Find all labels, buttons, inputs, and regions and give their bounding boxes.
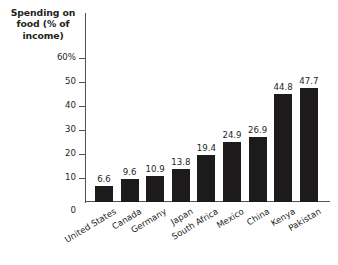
chart-title-line-3: income): [4, 30, 82, 41]
bar: [249, 137, 267, 202]
bar: [197, 155, 215, 202]
bar-value-label: 26.9: [242, 126, 274, 135]
bar: [172, 169, 190, 202]
bar-value-label: 47.7: [293, 77, 325, 86]
bar-value-label: 19.4: [190, 144, 222, 153]
y-tick-mark-40: [79, 106, 86, 107]
y-tick-mark-10: [79, 178, 86, 179]
chart-title-line-1: Spending on: [4, 7, 82, 18]
y-tick-label-50: 50: [16, 77, 76, 86]
bar: [121, 179, 139, 202]
bar: [95, 186, 113, 202]
chart-title: Spending on food (% of income): [4, 7, 82, 41]
x-axis-label-china: China: [245, 207, 271, 228]
bar: [146, 176, 164, 202]
y-tick-mark-30: [79, 130, 86, 131]
y-axis-line: [85, 13, 86, 203]
bar: [300, 88, 318, 202]
y-tick-mark-20: [79, 154, 86, 155]
chart-title-line-2: food (% of: [4, 18, 82, 29]
bar-chart: Spending on food (% of income) 60%504030…: [0, 0, 338, 265]
y-tick-mark-60: [79, 58, 86, 59]
y-tick-label-0: 0: [16, 206, 76, 215]
y-tick-label-30: 30: [16, 125, 76, 134]
bar: [274, 94, 292, 202]
x-axis-label-mexico: Mexico: [215, 207, 246, 231]
y-tick-mark-50: [79, 82, 86, 83]
y-tick-label-20: 20: [16, 149, 76, 158]
y-tick-label-60: 60%: [16, 53, 76, 62]
bar-value-label: 13.8: [165, 158, 197, 167]
y-tick-label-10: 10: [16, 173, 76, 182]
y-tick-label-40: 40: [16, 101, 76, 110]
bar: [223, 142, 241, 202]
